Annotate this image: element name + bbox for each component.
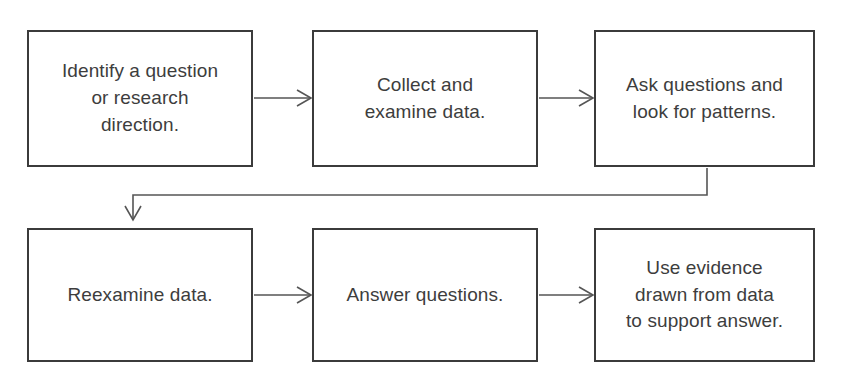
- connector-reexamine-to-answer: [254, 287, 311, 303]
- flow-node-label: Identify a question or research directio…: [62, 58, 218, 139]
- connector-ask-to-reexamine: [125, 168, 707, 220]
- flow-node-answer-questions[interactable]: Answer questions.: [312, 228, 538, 362]
- flow-node-label: Use evidence drawn from data to support …: [626, 255, 783, 336]
- connector-identify-to-collect: [254, 90, 311, 106]
- flow-node-label: Answer questions.: [347, 282, 504, 309]
- flow-node-label: Ask questions and look for patterns.: [626, 72, 783, 126]
- flow-node-label: Reexamine data.: [67, 282, 212, 309]
- connector-answer-to-evidence: [539, 287, 593, 303]
- flow-node-label: Collect and examine data.: [365, 72, 486, 126]
- connector-collect-to-ask: [539, 90, 593, 106]
- flow-node-collect-examine[interactable]: Collect and examine data.: [312, 30, 538, 167]
- flow-node-identify-question[interactable]: Identify a question or research directio…: [27, 30, 253, 167]
- flow-node-reexamine-data[interactable]: Reexamine data.: [27, 228, 253, 362]
- flow-node-ask-questions[interactable]: Ask questions and look for patterns.: [594, 30, 815, 167]
- flow-node-use-evidence[interactable]: Use evidence drawn from data to support …: [594, 228, 815, 362]
- flowchart-diagram: Identify a question or research directio…: [0, 0, 842, 384]
